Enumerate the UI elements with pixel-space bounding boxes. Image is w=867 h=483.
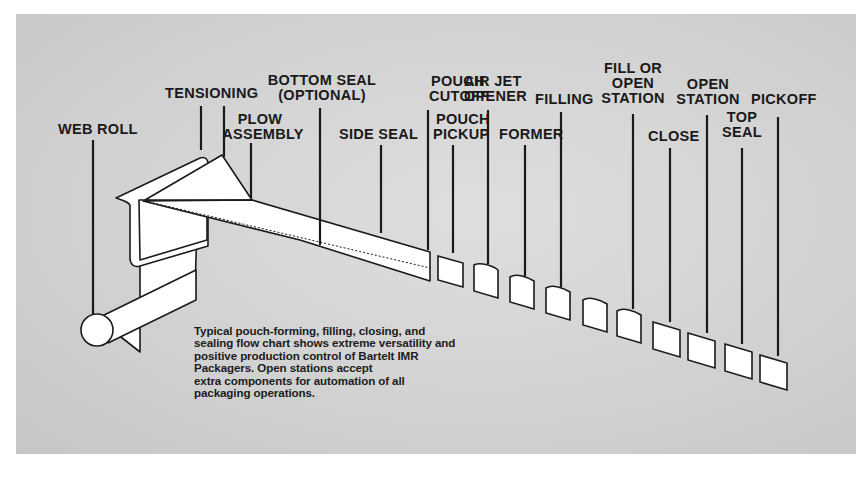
pouch-icon [474,264,498,298]
pouch-icon [617,309,641,343]
label-close: CLOSE [648,128,699,144]
pouch-icon [653,322,680,357]
web-roll-icon [81,314,113,346]
label-side-seal: SIDE SEAL [339,126,418,142]
pouch-icon [438,256,463,287]
pouch-icon [510,275,534,309]
pouch-icon [725,344,752,379]
pouch-icon [760,355,787,390]
figure-caption: Typical pouch-forming, filling, closing,… [194,325,494,399]
label-plow-assembly: PLOWASSEMBLY [222,111,304,142]
label-web-roll: WEB ROLL [58,121,138,137]
label-tensioning: TENSIONING [165,85,258,101]
label-air-jet-opener: AIR JETOPENER [464,73,527,104]
label-open-station: OPENSTATION [676,76,740,107]
pouch-icon [688,333,715,368]
caption-line: packaging operations. [194,387,494,399]
label-pickoff: PICKOFF [751,91,817,107]
label-pouch-pickup: POUCHPICKUP [433,111,490,142]
caption-line: sealing flow chart shows extreme versati… [194,337,494,349]
label-fill-or-open-station: FILL OROPENSTATION [601,60,665,106]
machine-illustration [81,155,430,352]
pouch-icon [583,298,607,332]
caption-line: Packagers. Open stations accept [194,362,494,374]
label-former: FORMER [499,126,564,142]
station-labels: WEB ROLL TENSIONING PLOWASSEMBLY BOTTOM … [58,60,817,144]
pouch-icon [546,286,570,320]
label-filling: FILLING [535,91,593,107]
flow-diagram: WEB ROLL TENSIONING PLOWASSEMBLY BOTTOM … [0,0,867,483]
label-top-seal: TOPSEAL [722,109,762,140]
label-bottom-seal: BOTTOM SEAL(OPTIONAL) [268,72,377,103]
